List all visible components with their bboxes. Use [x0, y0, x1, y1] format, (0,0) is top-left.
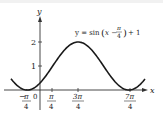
xtick-pi4-num: π: [48, 93, 54, 101]
xtick-3pi4-den: 4: [76, 103, 81, 111]
equation-rparen: ): [123, 27, 127, 38]
equation-frac-num: π: [116, 24, 122, 31]
ytick-1-label: 1: [31, 62, 36, 71]
xtick-neg-pi4-num: π: [23, 93, 29, 101]
x-axis-arrow-icon: [142, 88, 148, 92]
xtick-7pi4-den: 4: [128, 103, 133, 111]
origin-label: 0: [33, 93, 37, 101]
ytick-2-label: 2: [31, 38, 36, 47]
xtick-neg-pi4-den: 4: [24, 103, 29, 111]
sine-chart: x y 1 2 − π 4 0 π 4 3π 4 7π 4 y = sin ( …: [0, 0, 163, 118]
x-axis-label: x: [150, 86, 155, 95]
xtick-3pi4-num: 3π: [73, 93, 82, 101]
y-axis-arrow-icon: [38, 16, 42, 22]
equation-arg: x −: [105, 29, 117, 37]
equation-frac-den: 4: [117, 32, 121, 39]
equation-suffix: + 1: [128, 29, 141, 37]
xtick-7pi4-num: 7π: [125, 93, 134, 101]
xtick-pi4-den: 4: [49, 103, 54, 111]
y-axis-label: y: [36, 7, 42, 16]
equation-prefix: y = sin: [74, 29, 100, 37]
equation-label: y = sin ( x − π 4 ) + 1: [74, 24, 141, 39]
